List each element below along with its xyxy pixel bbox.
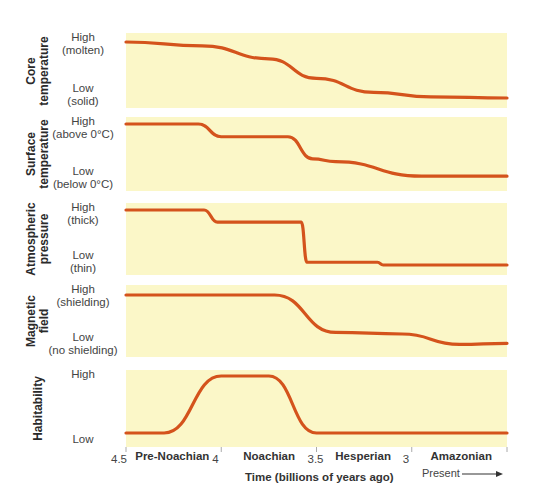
x-tick-label: 3.5 (308, 453, 324, 465)
high-label: High(above 0°C) (38, 115, 128, 141)
panel-background (126, 370, 507, 447)
panel-background (126, 117, 507, 191)
arrowhead-icon (496, 471, 503, 477)
low-label: Low (38, 433, 128, 446)
era-label: Noachian (243, 450, 295, 462)
x-tick-label: 4.5 (111, 453, 127, 465)
low-label: Low(thin) (38, 249, 128, 275)
low-label: Low(solid) (38, 82, 128, 108)
x-axis-title: Time (billions of years ago) (245, 471, 394, 483)
present-label: Present (422, 467, 460, 479)
x-tick-label: 3 (403, 453, 409, 465)
x-tick-label: 4 (212, 453, 218, 465)
low-label: Low(no shielding) (38, 331, 128, 357)
high-label: High (38, 368, 128, 381)
high-label: High(shielding) (38, 283, 128, 309)
era-label: Amazonian (431, 450, 492, 462)
low-label: Low(below 0°C) (38, 165, 128, 191)
high-label: High(thick) (38, 201, 128, 227)
era-label: Pre-Noachian (135, 450, 209, 462)
era-label: Hesperian (335, 450, 391, 462)
high-label: High(molten) (38, 31, 128, 57)
